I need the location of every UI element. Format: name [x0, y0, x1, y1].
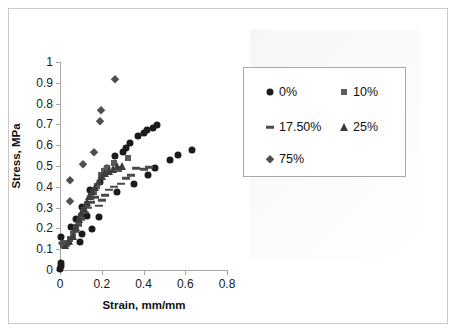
- legend-item-25[interactable]: 25%: [336, 118, 378, 136]
- y-tick-label-wrap: 1: [0, 56, 53, 68]
- data-point: [118, 162, 126, 170]
- data-point: [105, 189, 113, 192]
- plot-area: [60, 62, 226, 270]
- data-point: [111, 75, 119, 83]
- y-tick-label: 0.9: [7, 77, 53, 89]
- y-tick-label-wrap: 0.7: [0, 118, 53, 130]
- y-tick-label: 1: [7, 56, 53, 68]
- x-tick-label: 0.2: [82, 277, 122, 291]
- legend-label: 0%: [279, 85, 297, 99]
- data-point: [101, 194, 109, 197]
- y-tick-label: 0.1: [7, 243, 53, 255]
- data-point: [67, 197, 75, 205]
- triangle-marker-icon: [340, 123, 348, 131]
- data-point: [57, 259, 64, 266]
- data-point: [112, 152, 119, 159]
- data-point: [154, 122, 161, 129]
- chart-legend: 0%10%17.50%25%75%: [243, 67, 406, 177]
- data-point: [76, 238, 83, 245]
- data-point: [126, 140, 133, 147]
- legend-marker: [262, 84, 278, 100]
- legend-marker: [262, 151, 278, 167]
- data-point: [72, 223, 80, 231]
- legend-item-1750[interactable]: 17.50%: [262, 118, 321, 136]
- x-tick-label: 0.4: [124, 277, 164, 291]
- data-point: [67, 176, 75, 184]
- x-tick-label: 0.8: [207, 277, 247, 291]
- legend-label: 17.50%: [279, 120, 321, 134]
- chart-page: 00.10.20.30.40.50.60.70.80.91 00.20.40.6…: [0, 0, 458, 333]
- data-point: [97, 106, 105, 114]
- x-tick-label: 0: [40, 277, 80, 291]
- y-tick-label: 0.2: [7, 222, 53, 234]
- y-tick-label-wrap: 0.4: [0, 181, 53, 193]
- legend-item-75[interactable]: 75%: [262, 150, 304, 168]
- x-tick: [185, 271, 186, 275]
- y-tick-label-wrap: 0.6: [0, 139, 53, 151]
- x-tick: [102, 271, 103, 275]
- data-point: [89, 226, 96, 233]
- legend-marker: [336, 84, 352, 100]
- legend-item-10[interactable]: 10%: [336, 83, 378, 101]
- y-tick-label-wrap: 0: [0, 264, 53, 276]
- data-point: [79, 160, 87, 168]
- data-point: [117, 182, 125, 185]
- data-point: [166, 156, 173, 163]
- data-point: [91, 149, 99, 157]
- data-point: [122, 177, 130, 180]
- legend-label: 75%: [279, 152, 304, 166]
- data-point: [127, 174, 135, 177]
- y-tick-label: 0: [7, 264, 53, 276]
- data-point: [110, 186, 118, 189]
- legend-label: 25%: [353, 120, 378, 134]
- data-point: [95, 204, 103, 207]
- legend-item-0[interactable]: 0%: [262, 83, 297, 101]
- data-point: [95, 213, 102, 220]
- data-point: [98, 199, 106, 202]
- y-tick-label-wrap: 0.1: [0, 243, 53, 255]
- y-tick-label-wrap: 0.2: [0, 222, 53, 234]
- data-point: [188, 146, 195, 153]
- x-tick: [227, 271, 228, 275]
- y-axis-title: Stress, MPa: [10, 96, 22, 216]
- x-tick-label: 0.6: [165, 277, 205, 291]
- data-point: [96, 117, 104, 125]
- x-axis-title: Strain, mm/mm: [60, 299, 228, 311]
- data-point: [174, 151, 181, 158]
- y-tick-label-wrap: 0.3: [0, 202, 53, 214]
- legend-marker: [336, 119, 352, 135]
- dash-marker-icon: [266, 126, 274, 129]
- data-point: [144, 172, 151, 179]
- square-marker-icon: [341, 89, 347, 95]
- data-point: [125, 155, 131, 161]
- circle-marker-icon: [267, 89, 274, 96]
- data-point: [69, 232, 77, 240]
- diamond-marker-icon: [266, 155, 274, 163]
- y-tick-label-wrap: 0.8: [0, 98, 53, 110]
- y-tick-label-wrap: 0.9: [0, 77, 53, 89]
- legend-label: 10%: [353, 85, 378, 99]
- x-tick: [144, 271, 145, 275]
- y-tick-label-wrap: 0.5: [0, 160, 53, 172]
- legend-marker: [262, 119, 278, 135]
- data-point: [145, 166, 153, 169]
- data-point: [131, 180, 138, 187]
- data-point: [114, 189, 121, 196]
